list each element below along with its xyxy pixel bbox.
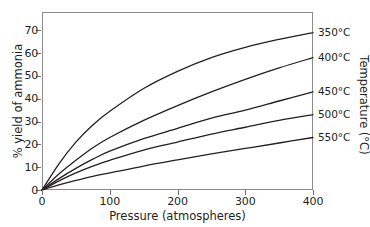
series-label-350c: 350°C	[318, 27, 350, 38]
x-axis-title: Pressure (atmospheres)	[42, 210, 313, 222]
legend-axis-title: Temperature (°C)	[358, 40, 370, 170]
series-line	[42, 33, 313, 190]
x-tick-label: 400	[291, 196, 335, 207]
x-tick-label: 100	[88, 196, 132, 207]
series-line	[42, 138, 313, 190]
series-line	[42, 92, 313, 190]
chart-figure: 010203040506070 % yield of ammonia 01002…	[0, 0, 370, 227]
y-tick-label: 0	[8, 185, 38, 196]
series-lines-svg	[42, 12, 313, 190]
x-tick-label: 0	[20, 196, 64, 207]
series-label-500c: 500°C	[318, 109, 350, 120]
x-tick-label: 300	[223, 196, 267, 207]
x-tick-label: 200	[156, 196, 200, 207]
y-axis-title: % yield of ammonia	[12, 21, 24, 181]
series-label-400c: 400°C	[318, 52, 350, 63]
series-label-450c: 450°C	[318, 86, 350, 97]
series-label-550c: 550°C	[318, 132, 350, 143]
